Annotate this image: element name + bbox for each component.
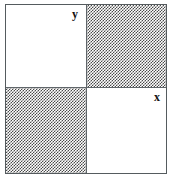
diagram-canvas: y x <box>0 0 173 185</box>
divider-vertical-top <box>86 5 87 87</box>
divider-vertical-bottom <box>86 87 87 173</box>
divider-horizontal-left <box>6 87 86 88</box>
quadrant-top-right <box>86 5 166 87</box>
variable-label-y: y <box>66 8 78 20</box>
variable-label-x: x <box>148 91 160 103</box>
quadrant-diagram-box <box>5 4 167 174</box>
divider-horizontal-right <box>86 87 166 88</box>
quadrant-bottom-left <box>6 87 86 173</box>
